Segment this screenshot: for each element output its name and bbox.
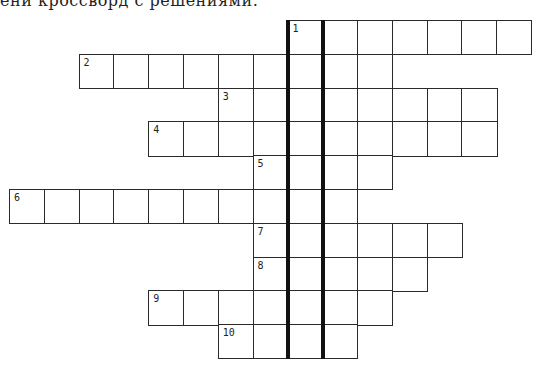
- crossword-cell[interactable]: [287, 54, 323, 89]
- crossword-cell[interactable]: [392, 88, 428, 123]
- crossword-cell[interactable]: [218, 121, 254, 156]
- crossword-cell[interactable]: 9: [148, 290, 184, 325]
- crossword-cell[interactable]: [357, 54, 393, 89]
- crossword-cell[interactable]: [357, 223, 393, 258]
- crossword-cell[interactable]: [218, 189, 254, 224]
- crossword-cell[interactable]: [392, 121, 428, 156]
- crossword-cell[interactable]: [322, 257, 358, 292]
- crossword-cell[interactable]: [322, 155, 358, 190]
- crossword-cell[interactable]: 6: [9, 189, 45, 224]
- crossword-cell[interactable]: [392, 223, 428, 258]
- crossword-cell[interactable]: [461, 88, 497, 123]
- crossword-cell[interactable]: [322, 290, 358, 325]
- crossword-cell[interactable]: [287, 290, 323, 325]
- crossword-cell[interactable]: [113, 54, 149, 89]
- crossword-cell[interactable]: [322, 121, 358, 156]
- crossword-cell[interactable]: [287, 223, 323, 258]
- crossword-cell[interactable]: [253, 54, 289, 89]
- crossword-cell[interactable]: [253, 88, 289, 123]
- crossword-cell[interactable]: [357, 121, 393, 156]
- clue-number: 5: [258, 159, 264, 169]
- clue-number: 4: [153, 125, 159, 135]
- crossword-cell[interactable]: 1: [287, 20, 323, 55]
- crossword-cell[interactable]: 7: [253, 223, 289, 258]
- crossword-cell[interactable]: 5: [253, 155, 289, 190]
- crossword-cell[interactable]: [253, 189, 289, 224]
- crossword-cell[interactable]: [322, 88, 358, 123]
- crossword-cell[interactable]: [287, 324, 323, 359]
- crossword-cell[interactable]: [183, 189, 219, 224]
- crossword-cell[interactable]: [427, 88, 463, 123]
- crossword-cell[interactable]: [322, 324, 358, 359]
- clue-number: 2: [84, 58, 90, 68]
- crossword-cell[interactable]: 2: [79, 54, 115, 89]
- crossword-cell[interactable]: 4: [148, 121, 184, 156]
- crossword-cell[interactable]: [357, 88, 393, 123]
- crossword-cell[interactable]: [427, 20, 463, 55]
- crossword-cell[interactable]: [392, 20, 428, 55]
- crossword-cell[interactable]: [322, 54, 358, 89]
- crossword-cell[interactable]: [357, 290, 393, 325]
- clue-number: 6: [14, 193, 20, 203]
- keyword-column-left-border: [286, 20, 290, 359]
- crossword-cell[interactable]: [357, 155, 393, 190]
- crossword-cell[interactable]: [357, 20, 393, 55]
- crossword-cell[interactable]: [253, 290, 289, 325]
- clue-number: 7: [258, 227, 264, 237]
- crossword-cell[interactable]: [322, 20, 358, 55]
- clue-number: 9: [153, 294, 159, 304]
- crossword-cell[interactable]: [357, 257, 393, 292]
- keyword-column-right-border: [321, 20, 325, 359]
- clue-number: 3: [223, 92, 229, 102]
- crossword-cell[interactable]: [461, 121, 497, 156]
- crossword-cell[interactable]: [322, 223, 358, 258]
- crossword-cell[interactable]: [183, 54, 219, 89]
- crossword-cell[interactable]: [218, 290, 254, 325]
- crossword-cell[interactable]: [218, 54, 254, 89]
- crossword-cell[interactable]: [253, 324, 289, 359]
- crossword-cell[interactable]: [496, 20, 532, 55]
- crossword-cell[interactable]: [287, 189, 323, 224]
- crossword-cell[interactable]: 10: [218, 324, 254, 359]
- crossword-cell[interactable]: [427, 223, 463, 258]
- crossword-cell[interactable]: [461, 20, 497, 55]
- crossword-cell[interactable]: [148, 189, 184, 224]
- crossword-cell[interactable]: [392, 257, 428, 292]
- clue-number: 1: [292, 24, 298, 34]
- crossword-cell[interactable]: [113, 189, 149, 224]
- crossword-cell[interactable]: [253, 121, 289, 156]
- crossword-cell[interactable]: 3: [218, 88, 254, 123]
- crossword-cell[interactable]: [287, 155, 323, 190]
- clue-number: 8: [258, 261, 264, 271]
- crossword-cell[interactable]: 8: [253, 257, 289, 292]
- crossword-cell[interactable]: [322, 189, 358, 224]
- clue-number: 10: [223, 328, 235, 338]
- crossword-grid: 12345678910: [0, 0, 545, 367]
- crossword-cell[interactable]: [148, 54, 184, 89]
- crossword-cell[interactable]: [79, 189, 115, 224]
- crossword-cell[interactable]: [287, 121, 323, 156]
- crossword-cell[interactable]: [183, 290, 219, 325]
- crossword-cell[interactable]: [44, 189, 80, 224]
- crossword-cell[interactable]: [287, 257, 323, 292]
- crossword-cell[interactable]: [287, 88, 323, 123]
- crossword-cell[interactable]: [183, 121, 219, 156]
- crossword-cell[interactable]: [427, 121, 463, 156]
